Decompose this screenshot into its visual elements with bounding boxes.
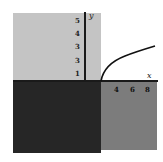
curve-line — [101, 46, 155, 81]
curve-plot — [0, 0, 163, 162]
